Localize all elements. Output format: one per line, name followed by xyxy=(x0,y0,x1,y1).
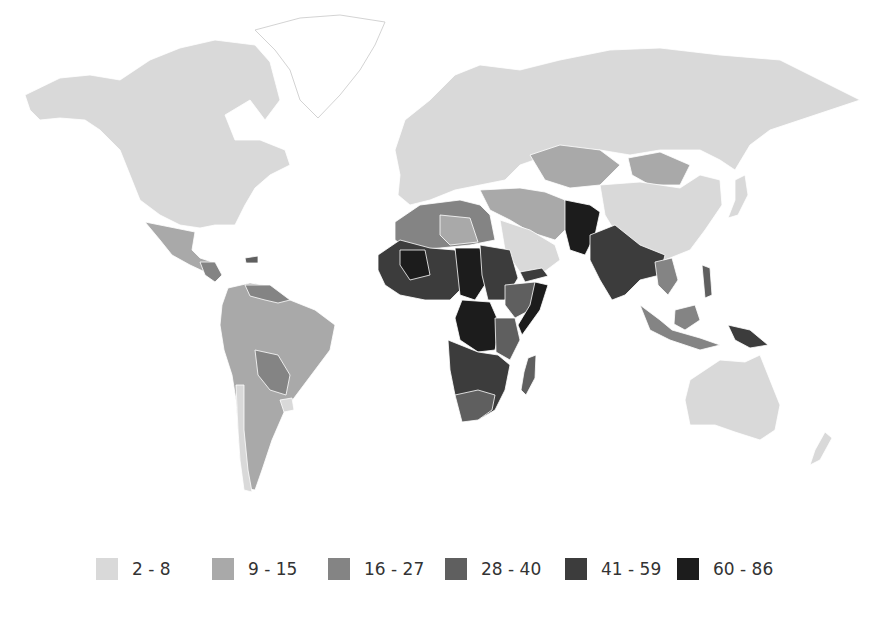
region-philippines xyxy=(702,265,712,298)
legend-swatch xyxy=(212,558,234,580)
region-mongolia xyxy=(628,152,690,185)
region-new-zealand xyxy=(810,432,832,465)
legend-label: 28 - 40 xyxy=(481,559,541,579)
region-central-america xyxy=(200,262,222,282)
legend-swatch xyxy=(677,558,699,580)
region-papua-new-guinea xyxy=(728,325,768,348)
region-north-america xyxy=(25,40,290,228)
region-southeast-asia xyxy=(655,258,678,295)
map-legend: 2 - 8 9 - 15 16 - 27 28 - 40 41 - 59 60 … xyxy=(96,556,796,582)
legend-item-16-27: 16 - 27 xyxy=(328,556,424,582)
legend-swatch xyxy=(328,558,350,580)
legend-label: 41 - 59 xyxy=(601,559,661,579)
region-dr-congo xyxy=(455,300,500,352)
legend-label: 2 - 8 xyxy=(132,559,171,579)
legend-item-2-8: 2 - 8 xyxy=(96,556,171,582)
region-east-africa xyxy=(495,318,520,360)
region-australia xyxy=(685,355,780,440)
legend-swatch xyxy=(565,558,587,580)
region-south-africa xyxy=(455,390,495,422)
legend-label: 16 - 27 xyxy=(364,559,424,579)
legend-swatch xyxy=(96,558,118,580)
world-choropleth-map xyxy=(0,0,877,520)
legend-item-9-15: 9 - 15 xyxy=(212,556,297,582)
legend-label: 60 - 86 xyxy=(713,559,773,579)
region-haiti xyxy=(245,256,258,263)
legend-item-28-40: 28 - 40 xyxy=(445,556,541,582)
region-europe-russia xyxy=(395,48,860,205)
legend-item-41-59: 41 - 59 xyxy=(565,556,661,582)
region-madagascar xyxy=(521,355,536,395)
region-japan xyxy=(728,175,748,218)
legend-swatch xyxy=(445,558,467,580)
legend-item-60-86: 60 - 86 xyxy=(677,556,773,582)
legend-label: 9 - 15 xyxy=(248,559,297,579)
region-borneo xyxy=(674,305,700,330)
